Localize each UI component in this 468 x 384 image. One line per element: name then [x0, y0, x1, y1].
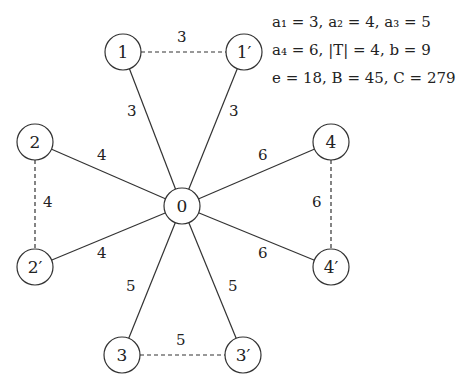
node-label: 4′: [324, 257, 339, 277]
node-label: 3: [117, 345, 128, 365]
node-label: 0: [177, 196, 188, 216]
node-3: 3: [104, 337, 140, 373]
node-label: 2: [30, 132, 41, 152]
node-label: 1: [118, 42, 129, 62]
node-1-prime: 1′: [226, 34, 262, 70]
node-label: 3′: [236, 345, 251, 365]
weight-label-0-3: 5: [126, 277, 136, 295]
edge-0-2: [35, 142, 182, 206]
node-2-prime: 2′: [17, 249, 53, 285]
node-4-prime: 4′: [313, 249, 349, 285]
node-2: 2: [17, 124, 53, 160]
weight-label-0-2: 4: [97, 146, 107, 164]
weight-label-2-2p: 4: [43, 193, 53, 211]
weight-label-0-1p: 3: [229, 102, 239, 120]
weight-label-0-3p: 5: [228, 277, 238, 295]
weight-label-0-4p: 6: [258, 244, 268, 262]
weight-label-3-3p: 5: [176, 331, 186, 349]
node-3-prime: 3′: [225, 337, 261, 373]
graph-diagram: 3 3 3 4 4 4 6 6 6 5 5 5 0 1 1′ 2 2′: [0, 0, 468, 384]
edge-0-2p: [35, 206, 182, 267]
edge-0-1: [123, 52, 182, 206]
weight-label-0-1: 3: [127, 102, 137, 120]
node-label: 2′: [28, 257, 43, 277]
param-line-3: e = 18, B = 45, C = 279: [272, 64, 456, 92]
node-label: 1′: [237, 42, 252, 62]
weight-label-1-1p: 3: [177, 28, 187, 46]
node-0: 0: [164, 188, 200, 224]
edge-0-4p: [182, 206, 331, 267]
node-4: 4: [313, 124, 349, 160]
weight-label-0-2p: 4: [97, 244, 107, 262]
weight-label-0-4: 6: [258, 146, 268, 164]
weight-label-4-4p: 6: [312, 193, 322, 211]
node-1: 1: [105, 34, 141, 70]
parameter-list: a₁ = 3, a₂ = 4, a₃ = 5 a₄ = 6, |T| = 4, …: [272, 8, 456, 92]
node-label: 4: [326, 132, 337, 152]
param-line-2: a₄ = 6, |T| = 4, b = 9: [272, 36, 456, 64]
param-line-1: a₁ = 3, a₂ = 4, a₃ = 5: [272, 8, 456, 36]
